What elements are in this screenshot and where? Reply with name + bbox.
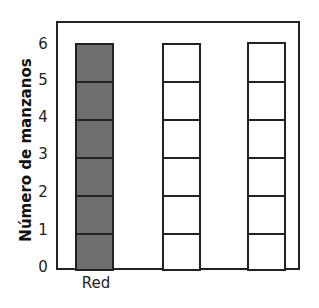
- y-tick: 0: [36, 258, 50, 276]
- y-tick: 6: [36, 35, 50, 53]
- bar-empty-2: [162, 43, 201, 271]
- bar-red: [75, 43, 114, 271]
- y-tick: 3: [36, 145, 50, 163]
- y-axis-label: Número de manzanos: [17, 58, 35, 241]
- y-tick: 1: [36, 221, 50, 239]
- y-tick: 4: [36, 108, 50, 126]
- bar-empty-3: [247, 42, 286, 271]
- y-tick: 2: [36, 183, 50, 201]
- y-tick: 5: [36, 71, 50, 89]
- x-tick-red: Red: [75, 274, 117, 292]
